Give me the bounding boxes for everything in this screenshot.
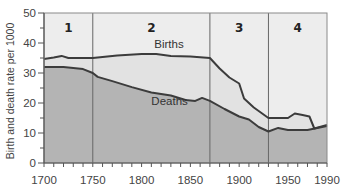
birth-death-rate-chart: 010203040501700175018001850190019501990 … — [0, 0, 345, 196]
y-tick-label: 20 — [23, 97, 36, 109]
y-axis-label: Birth and death rate per 1000 — [4, 23, 16, 160]
period-label-3: 3 — [235, 21, 243, 35]
x-tick-label: 1700 — [31, 174, 57, 186]
x-tick-label: 1750 — [80, 174, 106, 186]
y-tick-label: 30 — [23, 67, 36, 79]
period-label-2: 2 — [147, 21, 155, 35]
deaths-label: Deaths — [151, 95, 188, 107]
y-tick-label: 40 — [23, 37, 36, 49]
period-label-4: 4 — [294, 21, 302, 35]
y-tick-label: 50 — [23, 7, 36, 19]
y-tick-label: 10 — [23, 127, 36, 139]
x-tick-label: 1990 — [314, 174, 340, 186]
period-label-1: 1 — [64, 21, 72, 35]
x-tick-label: 1800 — [129, 174, 155, 186]
x-tick-label: 1950 — [275, 174, 301, 186]
births-label: Births — [154, 38, 184, 50]
x-tick-label: 1850 — [178, 174, 204, 186]
y-tick-label: 0 — [30, 157, 36, 169]
x-tick-label: 1900 — [226, 174, 252, 186]
